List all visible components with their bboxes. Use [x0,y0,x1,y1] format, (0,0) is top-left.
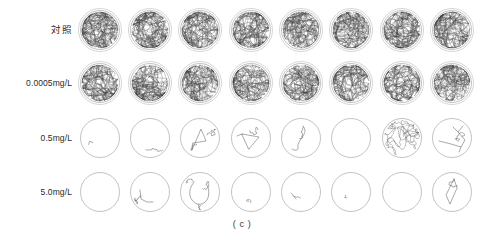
arena-cell [78,61,122,105]
arena-cell [229,61,273,105]
arena-circle [282,119,321,158]
arena-cell [178,116,222,160]
arena-circle [181,119,220,158]
arena-cell [430,116,474,160]
arena-cell [279,116,323,160]
arena-cell [178,61,222,105]
arena-cell [279,61,323,105]
arena-cell [229,170,273,214]
arena-circle [81,119,120,158]
row-label-0.0005mgl: 0.0005mg/L [0,79,72,88]
arena-circle [131,173,170,212]
arena-cell [178,170,222,214]
arena-cell [380,61,424,105]
arena-cell [329,8,373,52]
arena-cell [128,8,172,52]
arena-circle [282,64,321,103]
arena-cell [329,116,373,160]
arena-circle [433,119,472,158]
arena-cell [78,8,122,52]
arena-cell [380,8,424,52]
row-label-control: 対照 [0,25,72,35]
arena-cell [78,116,122,160]
arena-cell [178,8,222,52]
figure-caption: ( c ) [0,219,484,229]
arena-cell [128,61,172,105]
arena-cell [229,116,273,160]
arena-circle [232,119,271,158]
arena-cell [430,8,474,52]
arena-cell [128,116,172,160]
arena-cell [279,8,323,52]
arena-circle [232,173,271,212]
arena-cell [380,170,424,214]
arena-circle [81,173,120,212]
arena-cell [329,170,373,214]
track-figure: 対照 0.0005mg/L 0.5mg/L 5.0mg/L ( c ) [0,0,484,245]
row-label-5.0mgl: 5.0mg/L [0,188,72,197]
arena-circle [433,173,472,212]
arena-circle [181,173,220,212]
arena-cell [430,61,474,105]
arena-cell [78,170,122,214]
row-label-0.5mgl: 0.5mg/L [0,134,72,143]
arena-circle [383,119,422,158]
arena-cell [229,8,273,52]
arena-cell [128,170,172,214]
arena-cell [380,116,424,160]
arena-circle [332,173,371,212]
arena-cell [329,61,373,105]
arena-circle [383,173,422,212]
arena-cell [430,170,474,214]
arena-circle [332,119,371,158]
arena-circle [282,173,321,212]
arena-cell [279,170,323,214]
arena-circle [131,119,170,158]
